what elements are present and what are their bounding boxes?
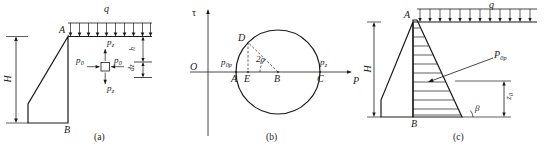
caption-panel-b: (b): [266, 132, 277, 142]
label-depth-h: h: [129, 47, 137, 51]
h-arrow-up: [372, 22, 375, 27]
label-point-a: A: [59, 25, 65, 35]
label-height-h: H: [363, 65, 373, 72]
caption-panel-a: (a): [94, 132, 105, 142]
label-center-b: B: [274, 74, 280, 84]
h-arrow-down: [14, 119, 18, 124]
label-resultant-p0p: P0p: [494, 50, 506, 60]
label-lever-arm-z0: z0: [504, 93, 513, 100]
label-point-a: A: [231, 74, 237, 84]
h-arrow-up: [14, 37, 18, 42]
h-arrow-down: [372, 113, 375, 118]
label-height-h: H: [3, 75, 13, 82]
label-element-thickness-dz: dz: [128, 64, 136, 71]
label-p-axis: P: [353, 76, 359, 86]
label-beta-angle: β: [475, 104, 479, 113]
resultant-force-arrowhead: [428, 78, 434, 82]
z0-arrow-up: [502, 81, 505, 85]
caption-panel-c: (c): [453, 132, 464, 142]
label-p0-left: p0: [76, 56, 84, 65]
panel-b: τ P O A E B C D 2ρ p0p pz (b): [182, 0, 365, 154]
label-surcharge-q: q: [489, 0, 494, 10]
label-origin-o: O: [190, 62, 197, 72]
figure-container: q A B H pz pz p0 p0 h dz (a): [0, 0, 546, 154]
label-point-d: D: [238, 33, 245, 43]
pressure-hatching: [413, 28, 461, 115]
label-point-e: E: [244, 74, 250, 84]
label-pz-top: pz: [107, 38, 114, 47]
wall-outline: [381, 22, 413, 117]
panel-a-drawing: [0, 0, 182, 154]
panel-c-drawing: [365, 0, 546, 154]
label-surcharge-q: q: [104, 4, 109, 14]
beta-angle-arc: [471, 111, 474, 118]
label-point-a: A: [404, 10, 410, 20]
label-pz-bottom: pz: [107, 84, 114, 93]
z0-arrow-down: [502, 113, 505, 117]
tau-axis-arrow: [206, 9, 210, 14]
pressure-distribution: [413, 20, 462, 117]
label-pz: pz: [320, 58, 327, 67]
label-p0-right: p0: [114, 56, 122, 65]
soil-element: [101, 63, 110, 72]
panel-c: q A B H P0p z0 β (c): [365, 0, 546, 154]
surcharge-arrows: [69, 23, 153, 37]
panel-a: q A B H pz pz p0 p0 h dz (a): [0, 0, 182, 154]
label-point-b: B: [64, 125, 70, 135]
label-point-c: C: [317, 74, 324, 84]
depth-dimension-group: [134, 37, 152, 78]
label-tau-axis: τ: [192, 8, 196, 18]
wall-outline: [28, 37, 68, 124]
p-axis-arrow: [347, 70, 352, 74]
surcharge-arrows: [418, 9, 531, 22]
label-point-b: B: [411, 119, 417, 129]
label-angle-2rho: 2ρ: [256, 55, 265, 64]
label-p0p: p0p: [221, 58, 232, 67]
